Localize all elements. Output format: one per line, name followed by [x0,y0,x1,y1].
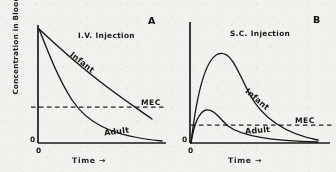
panel-b-origin-x-label: 0 [188,146,193,155]
panel-b-x-axis-label-text: Time [228,156,252,165]
panel-b-title: S.C. Injection [230,29,290,38]
panel-b-plot [0,0,336,172]
panel-b-x-axis-label: Time → [228,156,260,165]
panel-b-mec-label: MEC [295,116,315,125]
panel-b-x-axis-arrow-icon: → [255,156,260,165]
panel-b-origin-y-label: 0 [182,135,187,144]
panel-b-letter: B [313,14,320,25]
figure-pharmacokinetics-curves: Concentration in Blood ↑ 0 0 I.V. Inject… [0,0,336,172]
